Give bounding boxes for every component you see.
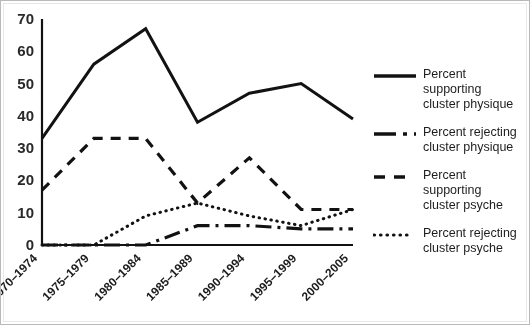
- legend-swatch-long-dash-dot: [373, 126, 417, 143]
- legend-item: Percent supporting cluster physique: [373, 67, 525, 112]
- legend-label: Percent supporting cluster physique: [423, 67, 525, 112]
- legend-label-line1: Percent supporting: [423, 67, 525, 97]
- legend-line-icon: [373, 126, 417, 143]
- series-line: [42, 29, 353, 139]
- plot-area: 010203040506070 1970–19741975–19791980–1…: [1, 1, 361, 325]
- series-line: [42, 138, 353, 209]
- x-tick-label: 1980–1984: [91, 251, 144, 304]
- legend-item: Percent rejecting cluster physique: [373, 125, 525, 155]
- y-tick-label: 60: [17, 42, 34, 59]
- legend-item: Percent rejecting cluster psyche: [373, 226, 525, 256]
- data-series-group: [42, 29, 353, 245]
- y-tick-label: 0: [26, 236, 34, 253]
- legend-label: Percent supporting cluster psyche: [423, 168, 525, 213]
- chart-legend: Percent supporting cluster physique Perc…: [373, 67, 525, 269]
- legend-label: Percent rejecting cluster psyche: [423, 226, 517, 256]
- legend-label-line1: Percent supporting: [423, 168, 525, 198]
- legend-line-icon: [373, 169, 417, 186]
- x-tick-label: 1985–1989: [143, 251, 196, 304]
- legend-item: Percent supporting cluster psyche: [373, 168, 525, 213]
- y-tick-label: 20: [17, 171, 34, 188]
- legend-label: Percent rejecting cluster physique: [423, 125, 517, 155]
- legend-label-line1: Percent rejecting: [423, 125, 517, 140]
- series-line: [42, 226, 353, 245]
- legend-label-line2: cluster psyche: [423, 241, 517, 256]
- x-tick-label: 1990–1994: [195, 251, 248, 304]
- x-tick-label: 1995–1999: [247, 251, 300, 304]
- x-tick-label: 1970–1974: [1, 251, 40, 304]
- line-chart-svg: 010203040506070 1970–19741975–19791980–1…: [1, 1, 361, 325]
- y-tick-label: 40: [17, 107, 34, 124]
- legend-swatch-dotted: [373, 227, 417, 244]
- legend-label-line1: Percent rejecting: [423, 226, 517, 241]
- x-axis-tick-labels: 1970–19741975–19791980–19841985–19891990…: [1, 251, 351, 304]
- y-tick-label: 70: [17, 10, 34, 27]
- y-axis-tick-labels: 010203040506070: [17, 10, 34, 253]
- legend-line-icon: [373, 68, 417, 85]
- legend-label-line2: cluster physique: [423, 140, 517, 155]
- legend-line-icon: [373, 227, 417, 244]
- legend-label-line2: cluster psyche: [423, 198, 525, 213]
- y-tick-label: 10: [17, 204, 34, 221]
- legend-swatch-dashed: [373, 169, 417, 186]
- y-tick-label: 50: [17, 75, 34, 92]
- x-tick-label: 2000–2005: [299, 251, 352, 304]
- legend-label-line2: cluster physique: [423, 97, 525, 112]
- legend-swatch-solid: [373, 68, 417, 85]
- x-tick-label: 1975–1979: [40, 251, 93, 304]
- y-tick-label: 30: [17, 139, 34, 156]
- chart-screenshot: 010203040506070 1970–19741975–19791980–1…: [0, 0, 530, 325]
- series-line: [42, 203, 353, 245]
